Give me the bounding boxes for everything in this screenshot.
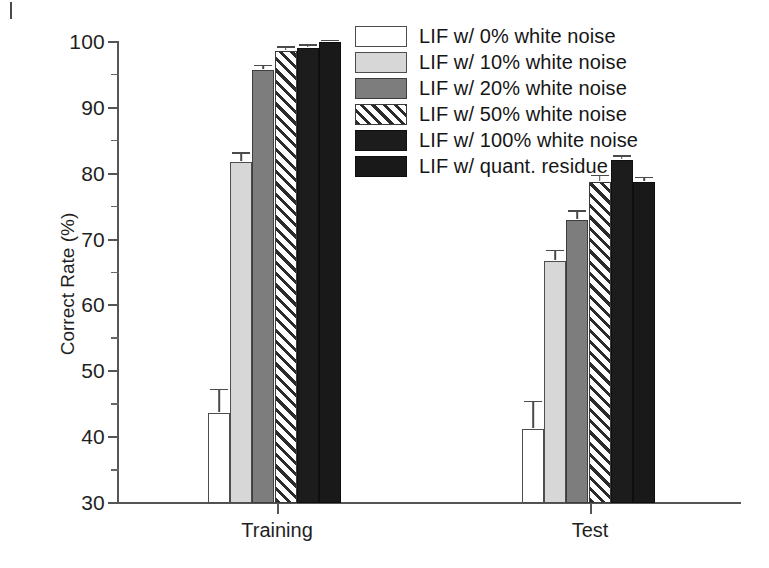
error-bar-stem	[532, 401, 534, 429]
legend-item: LIF w/ 50% white noise	[355, 102, 638, 127]
error-bar	[252, 65, 274, 71]
error-bar-cap	[210, 389, 228, 391]
legend-item-label: LIF w/ quant. residue	[419, 155, 608, 178]
y-tick-minor	[111, 272, 119, 274]
y-tick-minor	[111, 74, 119, 76]
error-bar	[230, 152, 252, 163]
y-tick-major	[108, 107, 119, 109]
error-bar	[522, 401, 544, 431]
legend-item: LIF w/ 100% white noise	[355, 128, 638, 153]
legend-item: LIF w/ 20% white noise	[355, 76, 638, 101]
y-tick-major	[108, 436, 119, 438]
legend-swatch-icon	[355, 52, 407, 73]
legend-item-label: LIF w/ 100% white noise	[419, 129, 638, 152]
bar	[208, 413, 230, 503]
error-bar-cap	[524, 401, 542, 403]
bar	[633, 182, 655, 503]
y-tick-minor	[111, 206, 119, 208]
y-tick-major	[108, 41, 119, 43]
y-tick-minor	[111, 469, 119, 471]
figure-bar-chart: 10090807060504030 Correct Rate (%) Train…	[0, 0, 769, 568]
y-tick-label: 40	[55, 425, 105, 449]
legend-item: LIF w/ 0% white noise	[355, 24, 638, 49]
error-bar-cap	[321, 40, 339, 42]
x-tick-label: Training	[241, 519, 313, 542]
error-bar-cap	[277, 46, 295, 48]
bar	[252, 70, 274, 503]
legend-item: LIF w/ 10% white noise	[355, 50, 638, 75]
error-bar	[319, 40, 341, 43]
y-axis-line	[117, 42, 119, 504]
legend-item-label: LIF w/ 0% white noise	[419, 25, 616, 48]
y-tick-minor	[111, 403, 119, 405]
error-bar	[275, 46, 297, 51]
bar	[589, 182, 611, 503]
legend-swatch-icon	[355, 78, 407, 99]
y-tick-label: 90	[55, 96, 105, 120]
error-bar-cap	[546, 250, 564, 252]
y-tick-minor	[111, 337, 119, 339]
legend-swatch-icon	[355, 26, 407, 47]
error-bar-cap	[568, 210, 586, 212]
x-tick	[590, 503, 592, 514]
error-bar-cap	[232, 152, 250, 154]
error-bar	[544, 250, 566, 262]
legend-item: LIF w/ quant. residue	[355, 154, 638, 179]
error-bar	[566, 210, 588, 221]
bar	[297, 48, 319, 503]
bar	[544, 261, 566, 503]
bar	[522, 429, 544, 503]
y-tick-minor	[111, 140, 119, 142]
legend-swatch-icon	[355, 130, 407, 151]
legend-swatch-icon	[355, 156, 407, 177]
bar	[319, 42, 341, 503]
legend-item-label: LIF w/ 20% white noise	[419, 77, 627, 100]
y-tick-major	[108, 370, 119, 372]
error-bar	[208, 389, 230, 414]
bar	[230, 162, 252, 503]
y-tick-label: 30	[55, 491, 105, 515]
bar	[275, 51, 297, 503]
x-tick-label: Test	[572, 519, 609, 542]
y-tick-label: 100	[55, 30, 105, 54]
error-bar-cap	[254, 65, 272, 67]
legend-item-label: LIF w/ 10% white noise	[419, 51, 627, 74]
error-bar	[297, 44, 319, 49]
y-axis-label: Correct Rate (%)	[57, 154, 79, 414]
x-tick	[277, 503, 279, 514]
legend-item-label: LIF w/ 50% white noise	[419, 103, 627, 126]
bar	[566, 220, 588, 503]
y-tick-major	[108, 304, 119, 306]
legend: LIF w/ 0% white noiseLIF w/ 10% white no…	[355, 24, 638, 180]
error-bar-cap	[299, 44, 317, 46]
error-bar-stem	[218, 389, 220, 412]
legend-swatch-icon	[355, 104, 407, 125]
y-tick-major	[108, 173, 119, 175]
bar	[611, 160, 633, 503]
y-tick-major	[108, 239, 119, 241]
y-tick-major	[108, 502, 119, 504]
